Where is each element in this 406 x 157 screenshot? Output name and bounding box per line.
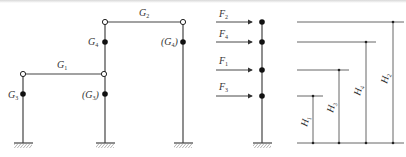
label-h4: H4: [351, 84, 365, 98]
label-g2: G2: [139, 7, 149, 19]
hinge-icon: [101, 71, 106, 76]
label-g4-paren: (G4): [161, 36, 179, 48]
hinge-icon: [20, 71, 25, 76]
label-g3-paren: (G3): [82, 89, 100, 101]
label-f1: F1: [218, 55, 228, 67]
label-h1: H1: [298, 115, 312, 129]
label-f2: F2: [218, 8, 228, 20]
hinge-icon: [180, 19, 185, 24]
mass-dot-icon: [259, 93, 265, 99]
label-g3: G3: [8, 89, 18, 101]
structural-diagram: G1 G2 G3 G4 (G3) (G4) F2 F4 F1 F3: [0, 0, 406, 157]
label-h3: H3: [324, 101, 338, 115]
mass-dot-icon: [259, 19, 265, 25]
label-h2: H2: [378, 72, 392, 86]
label-g4: G4: [88, 36, 98, 48]
label-f3: F3: [218, 81, 228, 93]
mass-dot-icon: [180, 39, 186, 45]
mass-dot-icon: [102, 91, 108, 97]
mass-dot-icon: [20, 91, 26, 97]
mass-nodes: [20, 39, 186, 97]
label-f4: F4: [218, 28, 228, 40]
hinge-nodes: [20, 19, 185, 76]
label-g1: G1: [57, 59, 67, 71]
mass-dot-icon: [259, 39, 265, 45]
mass-dot-icon: [102, 39, 108, 45]
force-diagram: F2 F4 F1 F3: [216, 8, 272, 148]
hinge-icon: [102, 19, 107, 24]
fixed-supports: [14, 143, 193, 148]
mass-dot-icon: [259, 67, 265, 73]
